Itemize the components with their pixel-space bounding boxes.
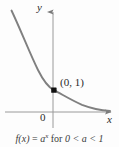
caption-connector: for [51,133,63,144]
caption-equals: = [32,133,38,144]
plot-area [0,0,119,147]
caption-domain: 0 < a < 1 [65,133,104,144]
origin-label: 0 [40,112,46,123]
x-axis-label: x [107,114,112,125]
y-axis-label: y [37,2,42,13]
caption-function-name: f(x) [16,133,30,144]
intercept-point-marker [51,87,56,92]
intercept-point-label: (0, 1) [60,77,84,88]
caption-exponent: x [45,132,48,140]
exponential-decay-figure: y x 0 (0, 1) f(x) = ax for 0 < a < 1 [0,0,119,147]
figure-caption: f(x) = ax for 0 < a < 1 [0,133,119,145]
exponential-curve [12,11,111,111]
